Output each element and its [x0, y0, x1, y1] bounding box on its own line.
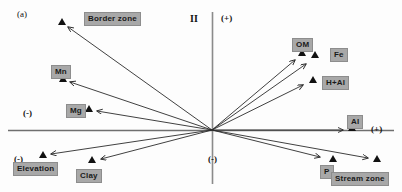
- point-label-stream-zone: Stream zone: [331, 172, 389, 186]
- marker-border-zone: [58, 18, 66, 25]
- point-label-al: Al: [347, 115, 363, 129]
- marker-group: [39, 18, 381, 163]
- vector-p: [212, 130, 320, 157]
- axis-cap-horizontal-positive: (+): [371, 124, 382, 134]
- point-label-mg: Mg: [66, 104, 86, 118]
- vector-border-zone: [68, 27, 212, 130]
- marker-elevation: [39, 151, 47, 158]
- marker-p: [329, 155, 337, 162]
- point-label-clay: Clay: [76, 169, 102, 183]
- marker-stream-zone: [373, 155, 381, 162]
- point-label-elevation: Elevation: [13, 162, 58, 176]
- vector-fe: [212, 64, 306, 130]
- vector-stream-zone: [212, 130, 368, 158]
- point-label-border-zone: Border zone: [84, 12, 141, 26]
- marker-mg: [85, 105, 93, 112]
- ordination-biplot-figure: (a) II (+) (-) (+) (-) (-) Border zone M…: [0, 0, 402, 192]
- vector-mn: [70, 82, 212, 130]
- axis-label-vertical: II: [190, 13, 198, 24]
- point-label-mn: Mn: [51, 65, 71, 79]
- marker-fe: [311, 51, 319, 58]
- vector-elevation: [51, 130, 212, 154]
- axis-cap-vertical-negative: (-): [208, 154, 217, 164]
- marker-clay: [88, 156, 96, 163]
- axis-cap-horizontal-negative-upper: (-): [23, 108, 32, 118]
- point-label-fe: Fe: [330, 48, 348, 62]
- point-label-h-al: H+Al: [322, 76, 349, 90]
- axis-cap-vertical-positive: (+): [221, 13, 232, 23]
- panel-id: (a): [17, 9, 27, 19]
- point-label-om: OM: [292, 38, 313, 52]
- vector-group: [51, 27, 368, 159]
- vector-mg: [97, 111, 212, 130]
- marker-h-al: [309, 76, 317, 83]
- plot-canvas: [0, 0, 402, 192]
